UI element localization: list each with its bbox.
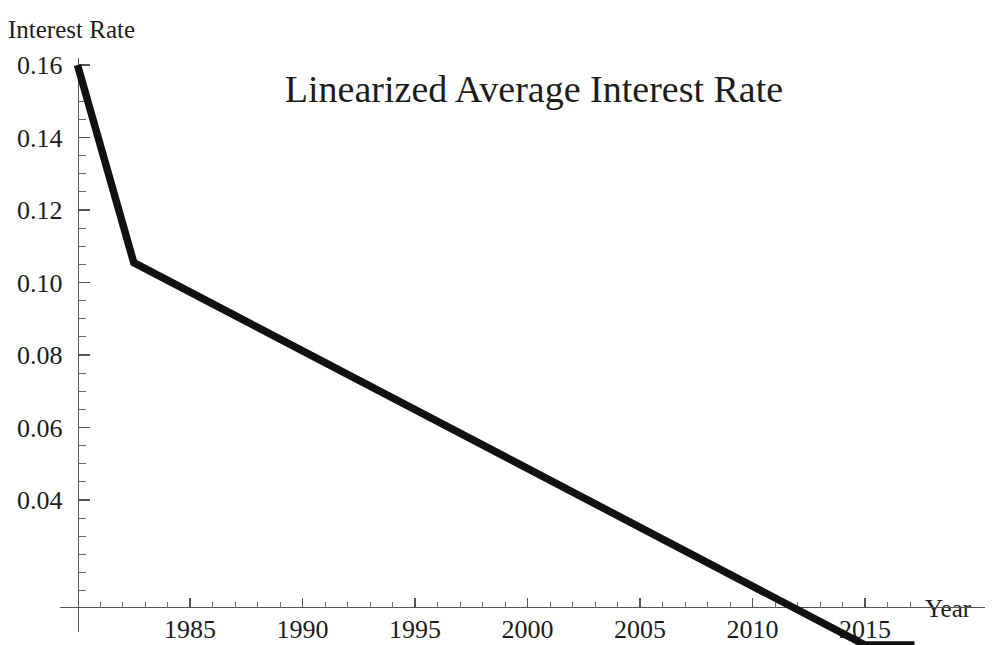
y-tick-label: 0.16 <box>17 51 63 80</box>
x-axis-label: Year <box>925 595 972 622</box>
x-tick-label: 1995 <box>389 615 441 644</box>
y-tick-label: 0.08 <box>17 341 63 370</box>
x-tick-label: 2010 <box>727 615 779 644</box>
y-tick-label: 0.14 <box>17 124 63 153</box>
chart-title: Linearized Average Interest Rate <box>285 68 783 110</box>
data-series-group <box>78 65 915 645</box>
axes-group <box>60 58 985 632</box>
x-tick-label: 2000 <box>502 615 554 644</box>
y-tick-label: 0.10 <box>17 269 63 298</box>
y-tick-label: 0.06 <box>17 414 63 443</box>
y-tick-label: 0.04 <box>17 486 63 515</box>
line-chart: Interest Rate Linearized Average Interes… <box>0 0 1002 645</box>
y-tick-label: 0.12 <box>17 196 63 225</box>
data-series-line <box>78 65 915 645</box>
y-axis-ticks <box>79 65 90 591</box>
y-axis-tick-labels: 0.040.060.080.100.120.140.16 <box>17 51 63 515</box>
x-tick-label: 2005 <box>614 615 666 644</box>
x-tick-label: 1990 <box>277 615 329 644</box>
x-axis-tick-labels: 1985199019952000200520102015 <box>164 615 891 644</box>
y-axis-label: Interest Rate <box>8 16 135 43</box>
x-tick-label: 1985 <box>164 615 216 644</box>
chart-canvas: Interest Rate Linearized Average Interes… <box>0 0 1002 645</box>
